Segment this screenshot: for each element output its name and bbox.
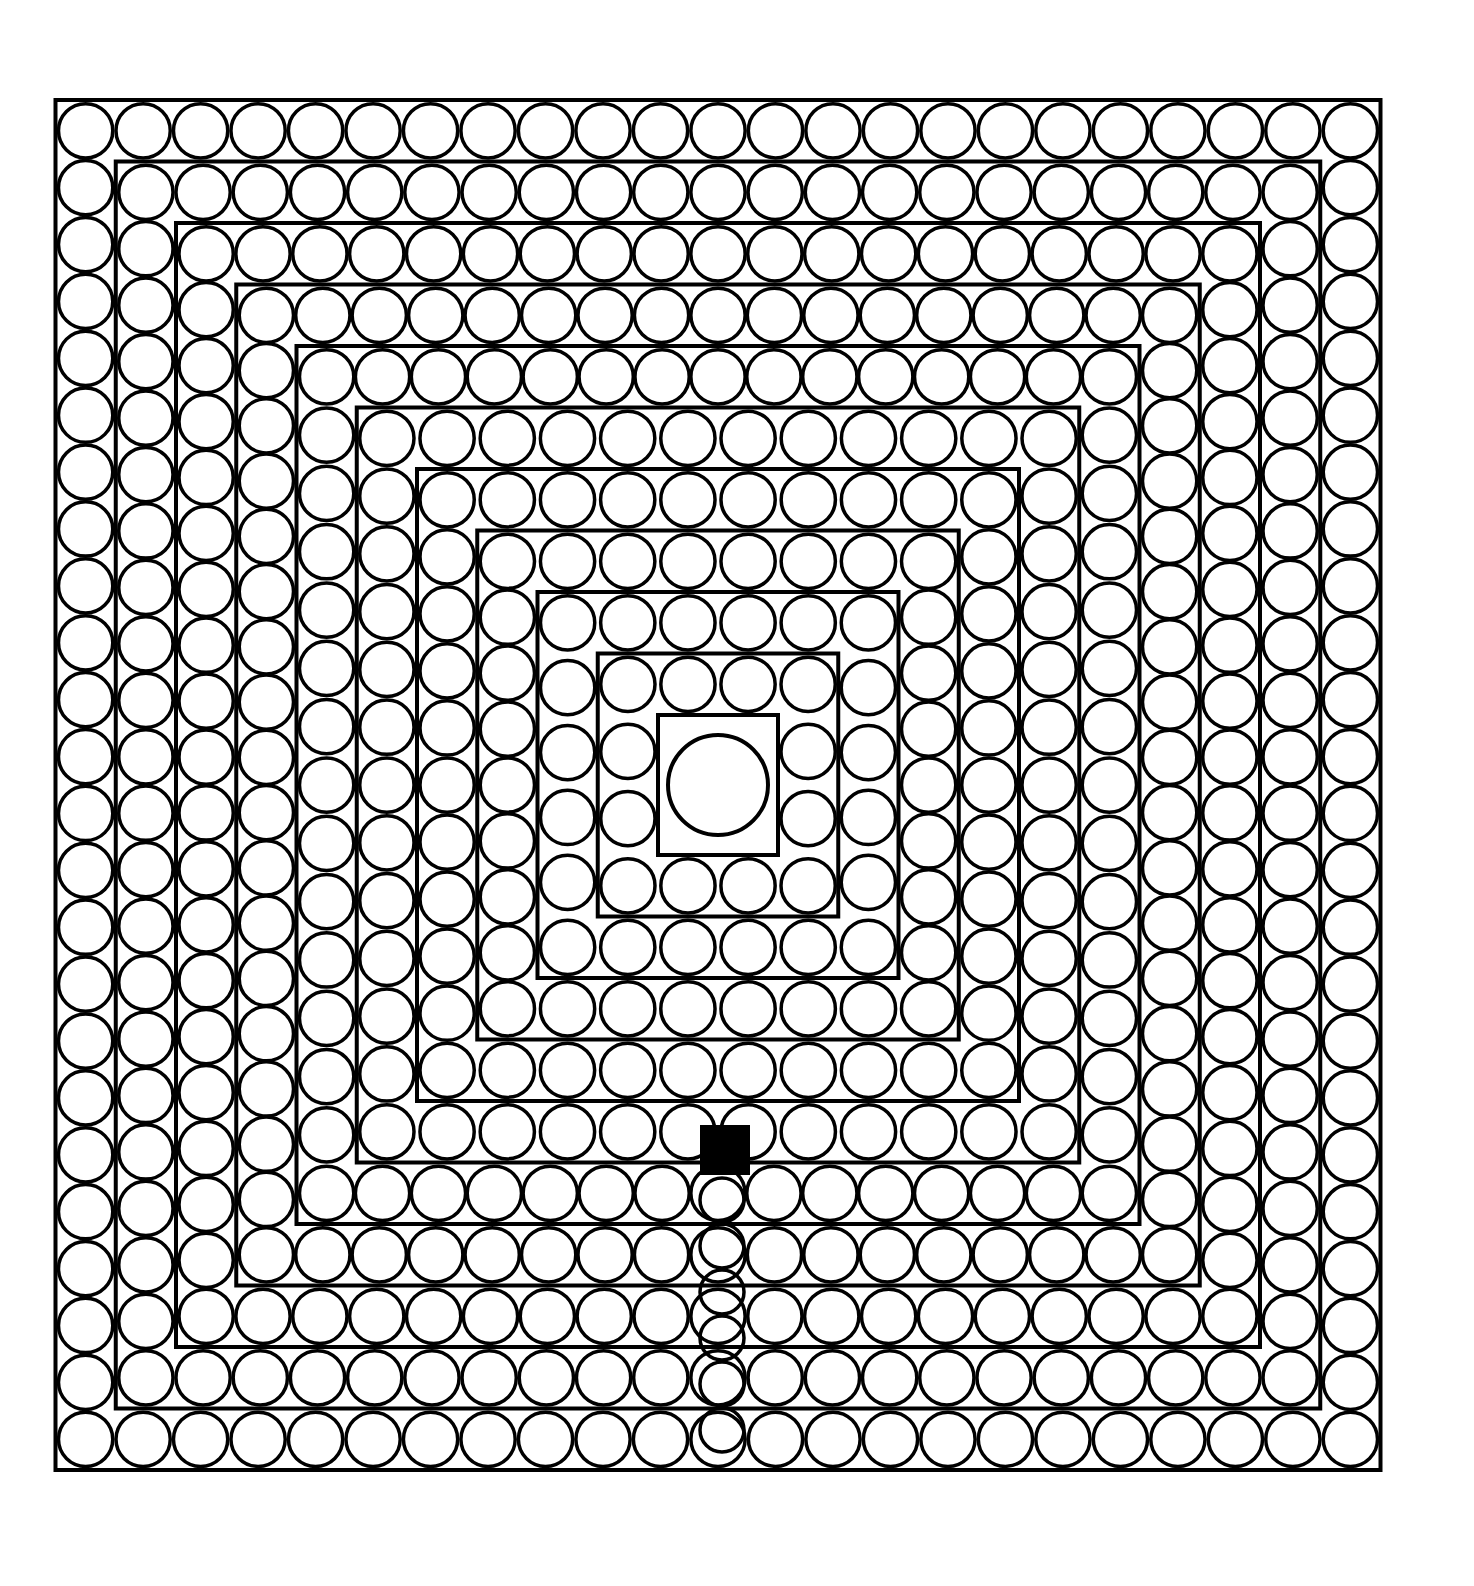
labyrinth-drawing [0, 0, 1474, 1586]
center-goal [668, 735, 768, 1175]
